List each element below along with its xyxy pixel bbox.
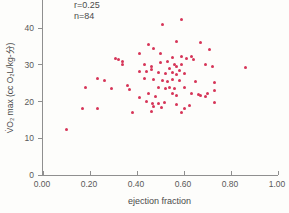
data-point — [157, 86, 160, 89]
data-point — [175, 94, 178, 97]
y-tick-label: 0 — [2, 170, 34, 180]
x-axis-tick — [184, 171, 185, 175]
y-tick-label: 40 — [2, 23, 34, 33]
y-tick-label: 10 — [2, 133, 34, 143]
data-point — [147, 92, 150, 95]
data-point — [164, 87, 167, 90]
data-point — [157, 102, 160, 105]
data-point — [183, 107, 186, 110]
y-axis-tick — [38, 101, 42, 102]
x-axis-tick — [137, 171, 138, 175]
data-point — [152, 78, 155, 81]
scatter-plot-figure: V̇O₂ max (cc O₂L/kg-分) r=0.25 n=84 0.000… — [0, 0, 289, 213]
data-point — [159, 61, 162, 64]
data-point — [168, 86, 171, 89]
x-tick-label: 0.20 — [72, 179, 106, 189]
data-point — [110, 87, 113, 90]
data-point — [213, 89, 216, 92]
x-tick-label: 0.00 — [25, 179, 59, 189]
data-point — [208, 48, 211, 51]
data-point — [171, 78, 174, 81]
data-point — [96, 77, 99, 80]
data-point — [152, 47, 155, 50]
x-tick-label: 0.80 — [213, 179, 247, 189]
data-point — [166, 80, 169, 83]
data-point — [164, 72, 167, 75]
data-point — [143, 63, 146, 66]
data-point — [150, 110, 153, 113]
data-point — [157, 71, 160, 74]
data-point — [166, 60, 169, 63]
x-axis-tick — [231, 171, 232, 175]
x-axis-tick — [278, 171, 279, 175]
data-point — [128, 88, 131, 91]
data-point — [180, 55, 183, 58]
data-point — [171, 71, 174, 74]
data-point — [171, 56, 174, 59]
data-point — [117, 58, 120, 61]
x-tick-label: 1.00 — [260, 179, 289, 189]
data-point — [150, 68, 153, 71]
y-axis-tick — [38, 138, 42, 139]
data-point — [131, 111, 134, 114]
data-point — [168, 67, 171, 70]
data-point — [190, 92, 193, 95]
data-point — [145, 100, 148, 103]
x-axis-tick — [90, 171, 91, 175]
data-point — [175, 73, 178, 76]
y-axis-label: V̇O₂ max (cc O₂L/kg-分) — [3, 43, 15, 134]
data-point — [199, 41, 202, 44]
data-point — [154, 95, 157, 98]
y-axis-tick — [38, 64, 42, 65]
y-tick-label: 20 — [2, 97, 34, 107]
data-point — [121, 63, 124, 66]
data-point — [180, 111, 183, 114]
data-point — [211, 65, 214, 68]
y-tick-label: 30 — [2, 60, 34, 70]
data-point — [180, 63, 183, 66]
y-axis-tick — [38, 175, 42, 176]
data-point — [161, 23, 164, 26]
data-point — [152, 105, 155, 108]
data-point — [244, 66, 247, 69]
data-point — [103, 79, 106, 82]
x-axis-tick — [43, 171, 44, 175]
data-point — [65, 128, 68, 131]
data-point — [183, 86, 186, 89]
x-axis-label: ejection fraction — [42, 196, 277, 206]
data-point — [173, 87, 176, 90]
data-point — [171, 92, 174, 95]
data-point — [160, 106, 163, 109]
data-point — [199, 94, 202, 97]
data-point — [175, 65, 178, 68]
data-point — [84, 86, 87, 89]
data-point — [159, 52, 162, 55]
data-point — [143, 77, 146, 80]
plot-area — [42, 0, 278, 176]
data-point — [138, 52, 141, 55]
data-point — [126, 84, 129, 87]
data-point — [188, 104, 191, 107]
x-tick-label: 0.40 — [119, 179, 153, 189]
data-point — [180, 18, 183, 21]
data-point — [213, 81, 216, 84]
data-point — [178, 79, 181, 82]
data-point — [161, 79, 164, 82]
data-point — [147, 43, 150, 46]
data-point — [204, 63, 207, 66]
data-point — [96, 107, 99, 110]
data-point — [145, 70, 148, 73]
data-point — [183, 72, 186, 75]
data-point — [213, 101, 216, 104]
data-point — [175, 40, 178, 43]
data-point — [81, 107, 84, 110]
data-point — [178, 69, 181, 72]
data-point — [163, 101, 166, 104]
data-point — [138, 96, 141, 99]
data-point — [175, 103, 178, 106]
x-tick-label: 0.60 — [166, 179, 200, 189]
data-point — [138, 70, 141, 73]
data-point — [204, 95, 207, 98]
y-axis-tick — [38, 28, 42, 29]
data-point — [192, 58, 195, 61]
